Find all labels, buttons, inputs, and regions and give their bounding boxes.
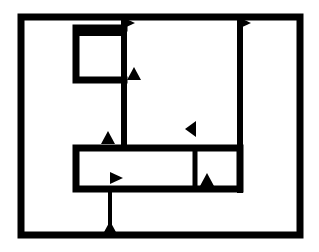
arrowhead-up-icon — [101, 131, 115, 144]
block-diagram — [0, 0, 319, 252]
arrowhead-left-icon — [185, 121, 196, 137]
arrowhead-right-icon — [110, 172, 123, 184]
arrowhead-up-icon — [200, 173, 214, 186]
outer-frame — [21, 17, 300, 235]
arrowhead-up-icon — [103, 221, 117, 234]
diagram-canvas — [0, 0, 319, 252]
arrowhead-up-icon — [127, 67, 141, 80]
wire-bottom-box — [76, 148, 240, 189]
